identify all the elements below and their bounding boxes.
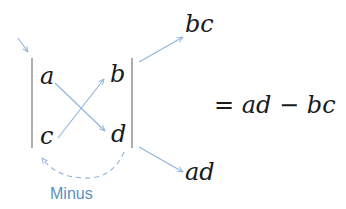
entry-c: c (40, 124, 53, 148)
result-equation: = ad − bc (214, 93, 336, 117)
arrow-to-bc (139, 37, 183, 62)
minus-label: Minus (50, 186, 93, 202)
entry-b: b (110, 62, 125, 86)
determinant-diagram: a b c d bc ad = ad − bc Minus (0, 0, 346, 209)
entry-a: a (40, 64, 54, 88)
minus-arc (42, 152, 124, 178)
entry-d: d (111, 122, 126, 146)
product-bc: bc (185, 12, 214, 36)
product-ad: ad (185, 160, 215, 184)
arrow-to-ad (139, 147, 183, 172)
entry-arrow (18, 38, 28, 52)
arrow-a-to-d (55, 83, 105, 131)
